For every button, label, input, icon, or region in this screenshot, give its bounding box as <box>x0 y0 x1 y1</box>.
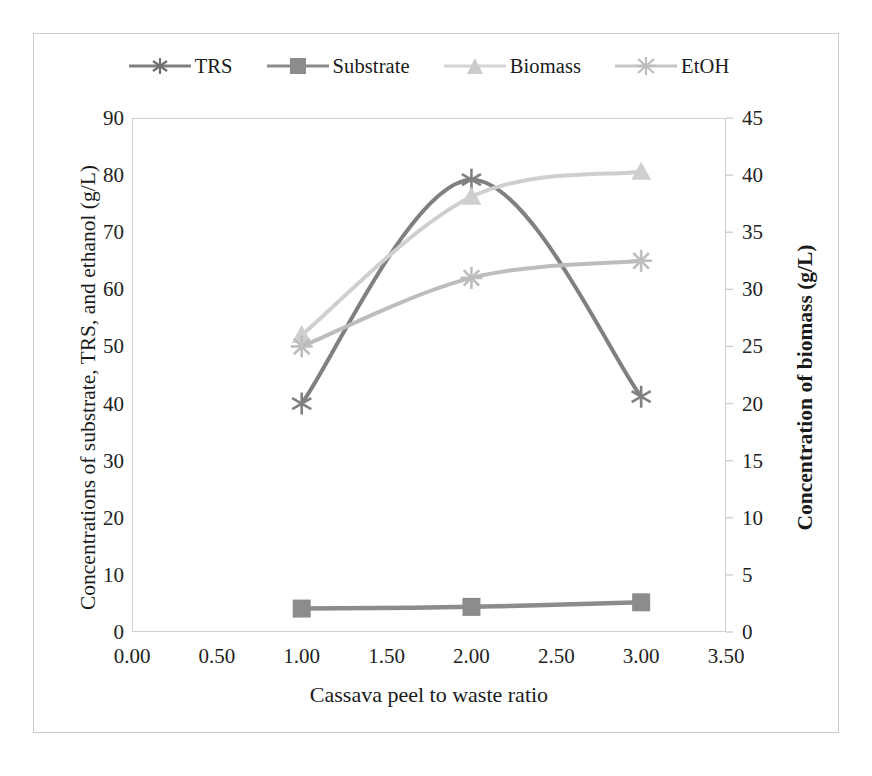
y-axis-left-tick-label: 30 <box>103 448 124 473</box>
series-trs <box>292 169 650 415</box>
legend-item-substrate[interactable]: Substrate <box>267 55 410 78</box>
y-axis-right-tick-label: 45 <box>742 106 763 131</box>
legend-item-trs[interactable]: TRS <box>129 55 233 78</box>
data-point-marker-substrate <box>462 598 480 616</box>
y-axis-left-tick-label: 0 <box>114 620 125 645</box>
x-axis-tick-label: 2.50 <box>538 644 575 669</box>
y-axis-left-tick-label: 50 <box>103 334 124 359</box>
legend-label-biomass: Biomass <box>510 55 581 78</box>
series-line-trs <box>302 180 641 404</box>
y-axis-left-tick-label: 90 <box>103 106 124 131</box>
x-axis-title: Cassava peel to waste ratio <box>132 682 726 708</box>
y-axis-left-tick-label: 60 <box>103 277 124 302</box>
data-point-marker-substrate <box>293 600 311 618</box>
y-axis-right-title: Concentration of biomass (g/L) <box>793 128 818 648</box>
legend-key-substrate-icon <box>267 56 329 76</box>
y-axis-left-title: Concentrations of substrate, TRS, and et… <box>76 128 101 648</box>
y-axis-right-tick-label: 25 <box>742 334 763 359</box>
legend-key-etoh-icon <box>615 56 677 76</box>
x-axis-tick-label: 0.50 <box>198 644 235 669</box>
y-axis-right-tick-label: 15 <box>742 448 763 473</box>
legend-label-etoh: EtOH <box>681 55 729 78</box>
series-layer <box>291 162 652 618</box>
y-axis-left-tick-label: 70 <box>103 220 124 245</box>
y-axis-right-tick-label: 5 <box>742 562 753 587</box>
legend-label-substrate: Substrate <box>333 55 410 78</box>
x-axis-tick-label: 0.00 <box>114 644 151 669</box>
y-axis-left-tick-label: 40 <box>103 391 124 416</box>
y-axis-right-tick-label: 10 <box>742 505 763 530</box>
x-axis-tick-label: 3.50 <box>708 644 745 669</box>
chart-figure: TRS Substrate Biomass <box>0 0 872 776</box>
y-axis-right-tick-label: 0 <box>742 620 753 645</box>
legend-key-biomass-icon <box>444 56 506 76</box>
legend-item-biomass[interactable]: Biomass <box>444 55 581 78</box>
legend-key-trs-icon <box>129 56 191 76</box>
data-point-marker-etoh <box>291 335 313 357</box>
chart-legend: TRS Substrate Biomass <box>132 50 726 82</box>
y-axis-right-tick-label: 20 <box>742 391 763 416</box>
y-axis-right-tick-label: 30 <box>742 277 763 302</box>
y-axis-right-ticks: 051015202530354045 <box>742 118 786 632</box>
y-axis-right-tick-label: 35 <box>742 220 763 245</box>
legend-item-etoh[interactable]: EtOH <box>615 55 729 78</box>
plot-canvas <box>132 118 726 632</box>
series-biomass <box>292 162 651 343</box>
y-axis-left-tick-label: 20 <box>103 505 124 530</box>
x-axis-ticks: 0.000.501.001.502.002.503.003.50 <box>132 644 726 674</box>
x-axis-tick-label: 3.00 <box>623 644 660 669</box>
data-point-marker-etoh <box>460 267 482 289</box>
x-axis-tick-label: 1.50 <box>368 644 405 669</box>
x-axis-tick-label: 1.00 <box>283 644 320 669</box>
series-etoh <box>291 250 652 358</box>
series-substrate <box>293 593 650 617</box>
y-axis-left-tick-label: 80 <box>103 163 124 188</box>
legend-label-trs: TRS <box>195 55 233 78</box>
y-axis-right-tick-label: 40 <box>742 163 763 188</box>
data-point-marker-substrate <box>632 593 650 611</box>
y-axis-left-tick-label: 10 <box>103 562 124 587</box>
x-axis-tick-label: 2.00 <box>453 644 490 669</box>
data-point-marker-etoh <box>630 250 652 272</box>
